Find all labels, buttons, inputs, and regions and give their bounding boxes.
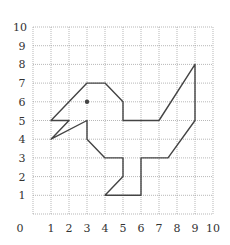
y-tick-label: 5 <box>19 115 26 128</box>
y-tick-label: 10 <box>13 21 27 34</box>
x-tick-label: 7 <box>156 222 163 235</box>
bird-eye <box>85 100 89 104</box>
y-tick-label: 4 <box>19 133 26 146</box>
x-tick-label: 6 <box>138 222 145 235</box>
y-tick-label: 7 <box>19 77 26 90</box>
y-tick-label: 1 <box>19 189 26 202</box>
x-tick-label: 9 <box>192 222 199 235</box>
y-tick-label: 3 <box>19 152 26 165</box>
x-tick-label: 8 <box>174 222 181 235</box>
y-tick-label: 9 <box>19 40 26 53</box>
x-tick-label: 0 <box>17 222 24 235</box>
y-tick-label: 2 <box>19 171 26 184</box>
y-axis-labels: 12345678910 <box>13 21 27 202</box>
y-tick-label: 6 <box>19 96 26 109</box>
x-tick-label: 4 <box>102 222 109 235</box>
x-tick-label: 1 <box>48 222 55 235</box>
x-tick-label: 10 <box>206 222 220 235</box>
x-tick-label: 3 <box>84 222 91 235</box>
y-tick-label: 8 <box>19 58 26 71</box>
x-axis-labels: 012345678910 <box>17 222 221 235</box>
x-tick-label: 5 <box>120 222 127 235</box>
coordinate-grid-figure: 012345678910 12345678910 <box>0 0 230 245</box>
x-tick-label: 2 <box>66 222 73 235</box>
